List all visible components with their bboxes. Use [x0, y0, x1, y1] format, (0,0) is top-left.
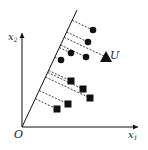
projection-dash [39, 90, 68, 104]
square-point [80, 86, 87, 93]
circle-point [83, 54, 90, 61]
x-axis-label: x1 [128, 129, 137, 141]
projection-diagram: U O x1 x2 [0, 0, 148, 150]
origin-label: O [14, 128, 23, 141]
projection-dash [72, 20, 93, 30]
square-point [54, 106, 61, 113]
square-point [68, 78, 75, 85]
projection-line [22, 10, 77, 127]
square-point [87, 95, 94, 102]
y-axis-label: x2 [8, 31, 18, 43]
projection-dash [67, 32, 88, 42]
unknown-label: U [110, 49, 120, 62]
circle-point [85, 39, 92, 46]
circle-point [90, 27, 97, 34]
square-point [65, 101, 72, 108]
circle-point [58, 57, 65, 64]
projection-dashes [35, 20, 106, 109]
circle-class-points [58, 27, 97, 64]
circle-point [68, 50, 75, 57]
square-class-points [54, 78, 94, 113]
